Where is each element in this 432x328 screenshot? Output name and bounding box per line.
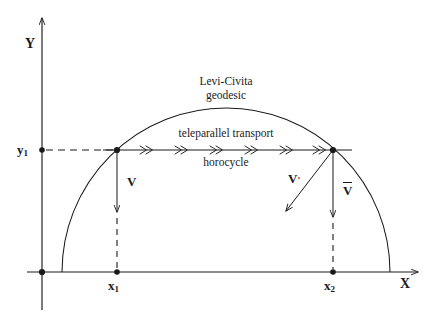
- x1-tick-subscript: 1: [115, 284, 120, 294]
- x2-axis-point-dot: [330, 269, 336, 275]
- x2-tick-label: x2: [324, 279, 335, 292]
- x1-tick-base: x: [108, 278, 115, 293]
- figure-canvas: Y X y1 x1 x2 V V' V Levi-Civita geodesic…: [0, 0, 432, 328]
- levi-civita-line-1: Levi-Civita: [176, 76, 276, 88]
- p2-point-dot: [330, 147, 336, 153]
- x2-tick-base: x: [324, 278, 331, 293]
- p1-point-dot: [114, 147, 120, 153]
- y1-tick-label: y1: [17, 143, 28, 156]
- x-axis-label: X: [400, 277, 410, 291]
- vector-v-bar-label: V: [343, 182, 352, 197]
- levi-civita-line-2: geodesic: [176, 90, 276, 102]
- x1-axis-point-dot: [114, 269, 120, 275]
- x2-tick-subscript: 2: [331, 284, 336, 294]
- origin-point-dot: [39, 269, 45, 275]
- y1-tick-base: y: [17, 142, 24, 157]
- levi-civita-geodesic-label: Levi-Civita geodesic: [176, 76, 276, 101]
- horocycle-label: horocycle: [181, 157, 271, 169]
- teleparallel-transport-label: teleparallel transport: [150, 128, 302, 140]
- vector-v-prime-label: V': [288, 172, 300, 185]
- vector-v-prime-base: V: [288, 171, 297, 186]
- y-axis-label: Y: [25, 37, 35, 51]
- vector-v-prime-mark: ': [297, 175, 300, 186]
- vector-v-bar-base: V: [343, 182, 352, 197]
- y1-axis-point-dot: [39, 147, 45, 153]
- x1-tick-label: x1: [108, 279, 119, 292]
- y1-tick-subscript: 1: [24, 148, 29, 158]
- vector-v-label: V: [127, 175, 136, 188]
